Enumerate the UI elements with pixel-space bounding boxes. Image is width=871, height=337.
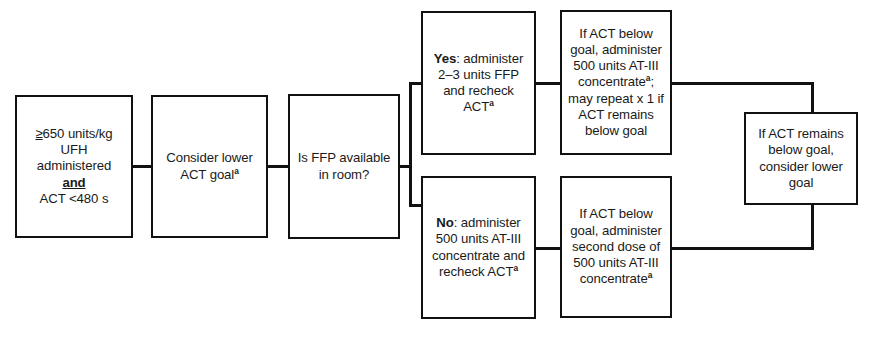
node-final[interactable]: If ACT remainsbelow goal,consider lowerg… (744, 112, 858, 205)
connector-yes-followup-right (670, 82, 814, 85)
node-consider-lower-goal-text: Consider lowerACT goala (162, 150, 257, 182)
connector-no-followup-up (811, 203, 814, 249)
flowchart-canvas: ≥650 units/kgUFHadministeredandACT <480 … (0, 0, 871, 337)
node-no-branch[interactable]: No: administer500 units AT-IIIconcentrat… (421, 176, 536, 319)
connector-trigger-to-consider (131, 165, 153, 168)
node-trigger-text: ≥650 units/kgUFHadministeredandACT <480 … (31, 126, 116, 207)
connector-consider-to-ffp (266, 165, 289, 168)
connector-yes-followup-down (811, 82, 814, 114)
node-ffp-question[interactable]: Is FFP availablein room? (288, 94, 400, 239)
connector-no-to-no-followup (534, 247, 562, 250)
node-no-followup-text: If ACT belowgoal, administersecond dose … (566, 206, 666, 287)
node-final-text: If ACT remainsbelow goal,consider lowerg… (754, 126, 848, 191)
node-ffp-question-text: Is FFP availablein room? (294, 150, 395, 182)
node-no-followup[interactable]: If ACT belowgoal, administersecond dose … (560, 176, 672, 318)
node-yes-branch-text: Yes: administer2–3 units FFPand recheckA… (430, 51, 527, 116)
node-yes-followup[interactable]: If ACT belowgoal, administer500 units AT… (560, 10, 672, 155)
greater-equal-icon: ≥ (35, 126, 42, 141)
node-yes-branch[interactable]: Yes: administer2–3 units FFPand recheckA… (421, 11, 536, 155)
node-no-branch-text: No: administer500 units AT-IIIconcentrat… (428, 215, 529, 280)
node-trigger[interactable]: ≥650 units/kgUFHadministeredandACT <480 … (15, 95, 133, 238)
connector-no-followup-right (670, 247, 814, 250)
connector-split-spine (409, 82, 412, 206)
node-yes-followup-text: If ACT belowgoal, administer500 units AT… (564, 26, 668, 139)
node-consider-lower-goal[interactable]: Consider lowerACT goala (151, 95, 268, 238)
connector-yes-to-yes-followup (534, 82, 562, 85)
